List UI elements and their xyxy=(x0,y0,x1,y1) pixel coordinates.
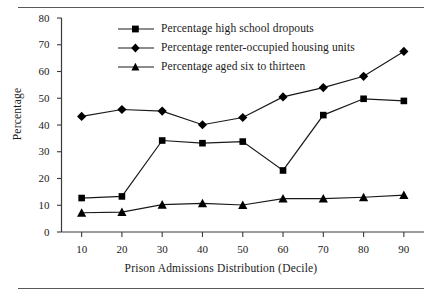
y-tick-label: 60 xyxy=(22,66,50,77)
x-tick-label: 80 xyxy=(349,244,379,255)
chart-figure: Percentage Prison Admissions Distributio… xyxy=(0,0,442,297)
y-tick-label: 80 xyxy=(22,13,50,24)
x-tick-label: 70 xyxy=(308,244,338,255)
y-tick-label: 50 xyxy=(22,93,50,104)
legend-item-renter-occupied: Percentage renter-occupied housing units xyxy=(118,38,355,57)
x-tick-label: 30 xyxy=(147,244,177,255)
x-tick-label: 40 xyxy=(187,244,217,255)
chart-legend: Percentage high school dropouts Percenta… xyxy=(118,19,355,76)
x-tick-label: 60 xyxy=(268,244,298,255)
legend-label-dropouts: Percentage high school dropouts xyxy=(161,22,314,35)
y-tick-label: 20 xyxy=(22,173,50,184)
x-axis-title: Prison Admissions Distribution (Decile) xyxy=(0,262,442,274)
legend-item-dropouts: Percentage high school dropouts xyxy=(118,19,355,38)
x-tick-label: 90 xyxy=(389,244,419,255)
legend-marker-diamond-icon xyxy=(118,41,154,55)
y-tick-label: 40 xyxy=(22,120,50,131)
x-tick-label: 10 xyxy=(67,244,97,255)
legend-item-aged-six-to-thirteen: Percentage aged six to thirteen xyxy=(118,57,355,76)
y-tick-label: 30 xyxy=(22,146,50,157)
x-tick-label: 50 xyxy=(228,244,258,255)
legend-label-aged-six-to-thirteen: Percentage aged six to thirteen xyxy=(161,60,305,73)
y-tick-label: 0 xyxy=(22,227,50,238)
y-tick-label: 70 xyxy=(22,39,50,50)
x-tick-label: 20 xyxy=(107,244,137,255)
y-tick-label: 10 xyxy=(22,200,50,211)
legend-marker-square-icon xyxy=(118,22,154,36)
legend-label-renter-occupied: Percentage renter-occupied housing units xyxy=(161,41,355,54)
legend-marker-triangle-icon xyxy=(118,60,154,74)
